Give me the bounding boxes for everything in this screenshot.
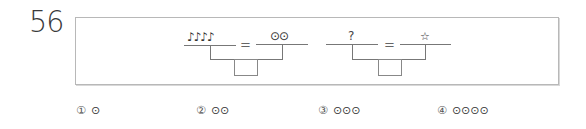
problem-frame xyxy=(75,17,559,85)
sun-symbols-icon: ⊙⊙ xyxy=(270,30,288,42)
option-marker: ③ xyxy=(318,104,329,117)
option-marker: ② xyxy=(196,104,207,117)
option-value: ⊙⊙ xyxy=(211,104,229,117)
answer-option-2[interactable]: ②⊙⊙ xyxy=(196,104,229,117)
option-value: ⊙⊙⊙⊙ xyxy=(452,104,489,117)
option-value: ⊙ xyxy=(91,104,100,117)
option-value: ⊙⊙⊙ xyxy=(333,104,361,117)
fulcrum-box xyxy=(378,59,402,76)
answer-option-4[interactable]: ④⊙⊙⊙⊙ xyxy=(437,104,489,117)
option-marker: ① xyxy=(76,104,87,117)
equals-sign: = xyxy=(240,38,251,51)
answer-option-1[interactable]: ①⊙ xyxy=(76,104,100,117)
equals-sign: = xyxy=(384,38,395,51)
left-support xyxy=(210,45,211,60)
option-marker: ④ xyxy=(437,104,448,117)
right-support xyxy=(425,44,426,60)
question-number: 56 xyxy=(29,3,63,39)
star-icon: ☆ xyxy=(420,31,430,42)
left-support xyxy=(352,44,353,60)
fulcrum-box xyxy=(234,59,258,76)
right-support xyxy=(282,44,283,60)
eighth-notes-icon: ♪♪♪♪ xyxy=(187,31,214,43)
answer-option-3[interactable]: ③⊙⊙⊙ xyxy=(318,104,361,117)
question-mark: ? xyxy=(348,30,354,42)
